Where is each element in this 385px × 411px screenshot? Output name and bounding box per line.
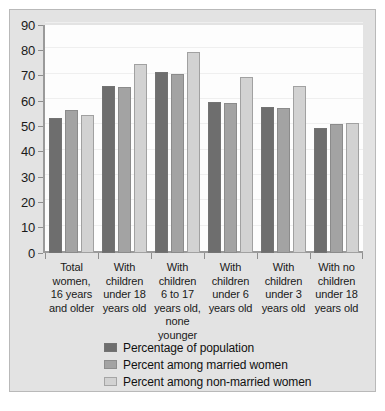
y-axis-tick-label: 0 [28, 247, 35, 260]
y-axis: 0102030405060708090 [9, 25, 43, 253]
x-axis-ticks [45, 253, 363, 259]
x-axis-category-label: Withchildrenunder 3years old [257, 261, 310, 315]
bar-group [151, 25, 204, 253]
bar [134, 64, 147, 253]
legend-swatch [104, 343, 117, 352]
bar [346, 123, 359, 253]
gridline [45, 22, 363, 23]
y-axis-tick-label: 70 [21, 69, 35, 82]
y-axis-tick-label: 60 [21, 95, 35, 108]
bar [314, 128, 327, 253]
x-axis-tick-mark [45, 253, 46, 259]
bar [102, 86, 115, 253]
bar [171, 74, 184, 253]
x-axis-category-label: Withchildrenunder 6years old [204, 261, 257, 315]
bar-chart-figure: 0102030405060708090 Totalwomen,16 yearsa… [0, 0, 385, 411]
bar-group [310, 25, 363, 253]
y-axis-tick-mark [38, 75, 43, 76]
y-axis-tick-mark [38, 253, 43, 254]
x-axis-tick-mark [362, 253, 363, 259]
bar [330, 124, 343, 253]
bar [293, 86, 306, 253]
y-axis-tick-label: 30 [21, 171, 35, 184]
y-axis-tick-mark [38, 227, 43, 228]
legend-item: Percentage of population [104, 340, 311, 355]
bar [240, 77, 253, 253]
x-axis-tick-mark [151, 253, 152, 259]
y-axis-tick-mark [38, 25, 43, 26]
y-axis-tick-label: 20 [21, 196, 35, 209]
legend-label: Percentage of population [123, 342, 254, 354]
chart-legend: Percentage of populationPercent among ma… [104, 340, 311, 389]
bar-group [45, 25, 98, 253]
bar [208, 102, 221, 253]
x-axis-tick-mark [204, 253, 205, 259]
bar [118, 87, 131, 253]
bar [224, 103, 237, 253]
legend-swatch [104, 377, 117, 386]
legend-item: Percent among married women [104, 357, 311, 372]
bar-group [98, 25, 151, 253]
bar [187, 52, 200, 253]
y-axis-tick-mark [38, 50, 43, 51]
bar [65, 110, 78, 253]
bars-layer [45, 25, 363, 253]
y-axis-tick-label: 90 [21, 19, 35, 32]
y-axis-tick-label: 50 [21, 120, 35, 133]
x-axis-category-label: Withchildrenunder 18years old [98, 261, 151, 315]
y-axis-tick-mark [38, 177, 43, 178]
y-axis-tick-mark [38, 151, 43, 152]
legend-item: Percent among non-married women [104, 374, 311, 389]
x-axis-category-label: Totalwomen,16 yearsand older [45, 261, 98, 315]
x-axis-labels: Totalwomen,16 yearsand olderWithchildren… [45, 261, 363, 333]
x-axis-tick-mark [310, 253, 311, 259]
bar [155, 72, 168, 253]
bar [261, 107, 274, 253]
y-axis-tick-mark [38, 126, 43, 127]
y-axis-tick-label: 10 [21, 221, 35, 234]
legend-label: Percent among married women [123, 359, 288, 371]
x-axis-tick-mark [98, 253, 99, 259]
y-axis-tick-mark [38, 202, 43, 203]
y-axis-tick-label: 40 [21, 145, 35, 158]
y-axis-tick-label: 80 [21, 44, 35, 57]
x-axis-category-label: Withchildren6 to 17years old,noneyounger [151, 261, 204, 342]
legend-label: Percent among non-married women [123, 376, 311, 388]
bar [49, 118, 62, 253]
bar-group [257, 25, 310, 253]
y-axis-tick-mark [38, 101, 43, 102]
bar [277, 108, 290, 253]
legend-swatch [104, 360, 117, 369]
bar [81, 115, 94, 253]
bar-group [204, 25, 257, 253]
x-axis-category-label: With nochildrenunder 18years old [310, 261, 363, 315]
x-axis-tick-mark [257, 253, 258, 259]
